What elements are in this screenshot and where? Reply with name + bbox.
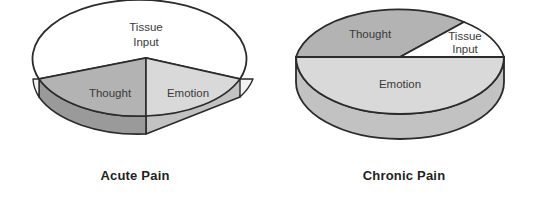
- chronic-label-thought: Thought: [349, 28, 392, 40]
- acute-pain-pie-svg: Tissue Input Thought Emotion: [0, 0, 270, 165]
- acute-label-thought: Thought: [89, 87, 132, 99]
- chronic-pain-pie-svg: Thought Tissue Input Emotion: [269, 0, 539, 165]
- acute-label-tissue-input-line1: Tissue: [129, 21, 162, 33]
- acute-tissue-input-side-wall-right: [240, 79, 253, 97]
- acute-tissue-input-side-wall-left: [33, 79, 39, 97]
- chart-acute-pain: Tissue Input Thought Emotion Acute Pain: [0, 0, 270, 200]
- chart-chronic-pain: Thought Tissue Input Emotion Chronic Pai…: [269, 0, 539, 200]
- chronic-pain-caption: Chronic Pain: [269, 168, 539, 183]
- chronic-label-tissue-input-line1: Tissue: [448, 30, 481, 42]
- acute-pain-caption: Acute Pain: [0, 168, 270, 183]
- pain-model-pie-figure: Tissue Input Thought Emotion Acute Pain …: [0, 0, 539, 200]
- acute-label-tissue-input-line2: Input: [133, 36, 159, 48]
- chronic-label-emotion: Emotion: [379, 78, 421, 90]
- chronic-label-tissue-input-line2: Input: [452, 43, 478, 55]
- acute-label-emotion: Emotion: [167, 87, 209, 99]
